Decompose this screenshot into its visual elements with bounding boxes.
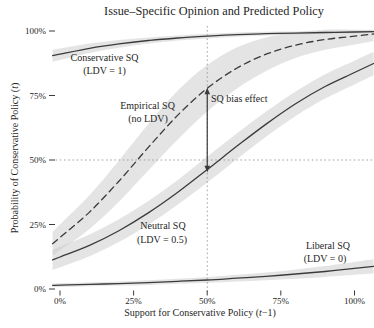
empirical-sq-label: Empirical SQ: [120, 100, 175, 111]
y-tick-label: 0%: [34, 284, 47, 294]
empirical-sq-sublabel: (no LDV): [128, 113, 168, 125]
empirical-sq-band: [53, 30, 374, 256]
y-tick-label: 75%: [30, 91, 47, 101]
y-axis-title-text: Probability of Conservative Policy (: [9, 88, 21, 233]
x-tick-label: 0%: [54, 296, 67, 306]
x-tick-label: 75%: [273, 296, 290, 306]
x-axis-title-text: Support for Conservative Policy (: [124, 307, 260, 319]
liberal-sq-sublabel: (LDV = 0): [304, 253, 347, 265]
y-axis-title: Probability of Conservative Policy (t): [9, 83, 21, 234]
x-axis-title: Support for Conservative Policy (t−1): [124, 307, 276, 319]
conservative-sq-sublabel: (LDV = 1): [83, 65, 126, 77]
x-axis-labels: 0% 25% 50% 75% 100%: [54, 296, 366, 306]
x-axis-ticks: [60, 291, 355, 296]
y-axis-labels: 0% 25% 50% 75% 100%: [25, 26, 47, 294]
neutral-sq-sublabel: (LDV = 0.5): [137, 234, 187, 246]
y-axis-title-tail: ): [9, 83, 21, 86]
sq-bias-effect-label: SQ bias effect: [211, 93, 268, 104]
neutral-sq-label: Neutral SQ: [140, 220, 186, 231]
x-tick-label: 100%: [344, 296, 366, 306]
x-tick-label: 25%: [125, 296, 142, 306]
y-tick-label: 50%: [30, 155, 47, 165]
chart-title: Issue–Specific Opinion and Predicted Pol…: [104, 4, 325, 18]
conservative-sq-label: Conservative SQ: [70, 52, 139, 63]
x-axis-title-tail: −1): [262, 307, 276, 319]
chart-canvas: Issue–Specific Opinion and Predicted Pol…: [0, 0, 374, 328]
y-tick-label: 100%: [25, 26, 47, 36]
opinion-policy-figure: Issue–Specific Opinion and Predicted Pol…: [0, 0, 374, 328]
x-tick-label: 50%: [199, 296, 216, 306]
liberal-sq-label: Liberal SQ: [306, 240, 351, 251]
y-tick-label: 25%: [30, 220, 47, 230]
